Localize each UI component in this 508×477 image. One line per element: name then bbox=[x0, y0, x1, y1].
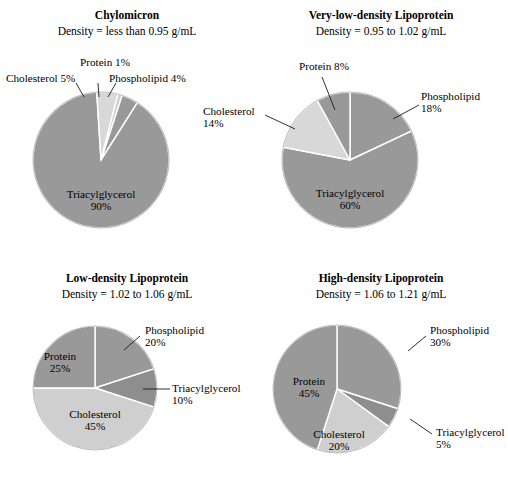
label-phospholipid-hdl-name: Phospholipid bbox=[430, 324, 489, 336]
leader-phospholipid-hdl-icon bbox=[408, 336, 426, 351]
label-cholesterol-hdl-pct: 20% bbox=[244, 440, 434, 452]
label-cholesterol-hdl-name: Cholesterol bbox=[244, 428, 434, 440]
label-protein-hdl: Protein 45% bbox=[269, 375, 349, 400]
label-protein-hdl-name: Protein bbox=[269, 375, 349, 387]
leader-lines-hdl bbox=[408, 336, 432, 434]
lipoprotein-composition-figure: Chylomicron Density = less than 0.95 g/m… bbox=[0, 0, 508, 477]
label-triacylglycerol-hdl: Triacylglycerol 5% bbox=[436, 426, 505, 451]
label-phospholipid-hdl-pct: 30% bbox=[430, 336, 489, 348]
panel-hdl: High-density Lipoprotein Density = 1.06 … bbox=[254, 240, 508, 477]
label-triacylglycerol-hdl-name: Triacylglycerol bbox=[436, 426, 505, 438]
label-protein-hdl-pct: 45% bbox=[269, 387, 349, 399]
label-triacylglycerol-hdl-pct: 5% bbox=[436, 438, 505, 450]
label-phospholipid-hdl: Phospholipid 30% bbox=[430, 324, 489, 349]
pie-hdl bbox=[0, 0, 508, 477]
label-cholesterol-hdl: Cholesterol 20% bbox=[244, 428, 434, 453]
